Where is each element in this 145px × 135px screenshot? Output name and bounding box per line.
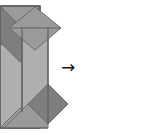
origami-step-diagram: → bbox=[0, 0, 145, 135]
head-diamond-lower bbox=[9, 28, 61, 50]
head-diamond-upper bbox=[9, 7, 61, 28]
figure-after-svg bbox=[0, 0, 70, 135]
